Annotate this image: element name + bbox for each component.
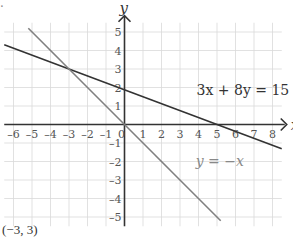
x-tick-label: 2 <box>158 128 165 141</box>
x-tick-label: –2 <box>81 128 94 141</box>
y-tick-label: –3 <box>109 174 122 187</box>
x-tick-label: –3 <box>63 128 76 141</box>
x-tick-label: 5 <box>214 128 221 141</box>
y-tick-label: 1 <box>115 100 122 113</box>
line-annotations: 3x + 8y = 15y = −x <box>195 82 290 169</box>
line2-label: y = −x <box>195 153 244 169</box>
y-tick-label: –5 <box>109 211 122 224</box>
intersection-answer: (−3, 3) <box>2 222 38 238</box>
y-tick-label: 4 <box>115 45 122 58</box>
y-tick-label: –4 <box>109 193 122 206</box>
x-tick-label: 3 <box>177 128 184 141</box>
x-tick-label: 4 <box>195 128 202 141</box>
x-tick-label: –6 <box>7 128 20 141</box>
y-tick-label: 5 <box>115 26 122 39</box>
x-tick-label: –5 <box>26 128 39 141</box>
x-axis-label: x <box>291 116 293 134</box>
axes: xy <box>4 0 293 226</box>
x-tick-label: 8 <box>269 128 276 141</box>
x-tick-label: –4 <box>44 128 57 141</box>
coordinate-graph: xy –6–5–4–3–2–1012345678–5–4–3–2–112345 … <box>0 0 293 243</box>
line1-label: 3x + 8y = 15 <box>197 82 290 98</box>
x-tick-label: 6 <box>232 128 239 141</box>
y-axis-label: y <box>119 0 129 17</box>
y-tick-label: 3 <box>115 63 122 76</box>
y-tick-label: –1 <box>109 137 122 150</box>
x-tick-label: 1 <box>140 128 147 141</box>
y-tick-label: –2 <box>109 156 122 169</box>
